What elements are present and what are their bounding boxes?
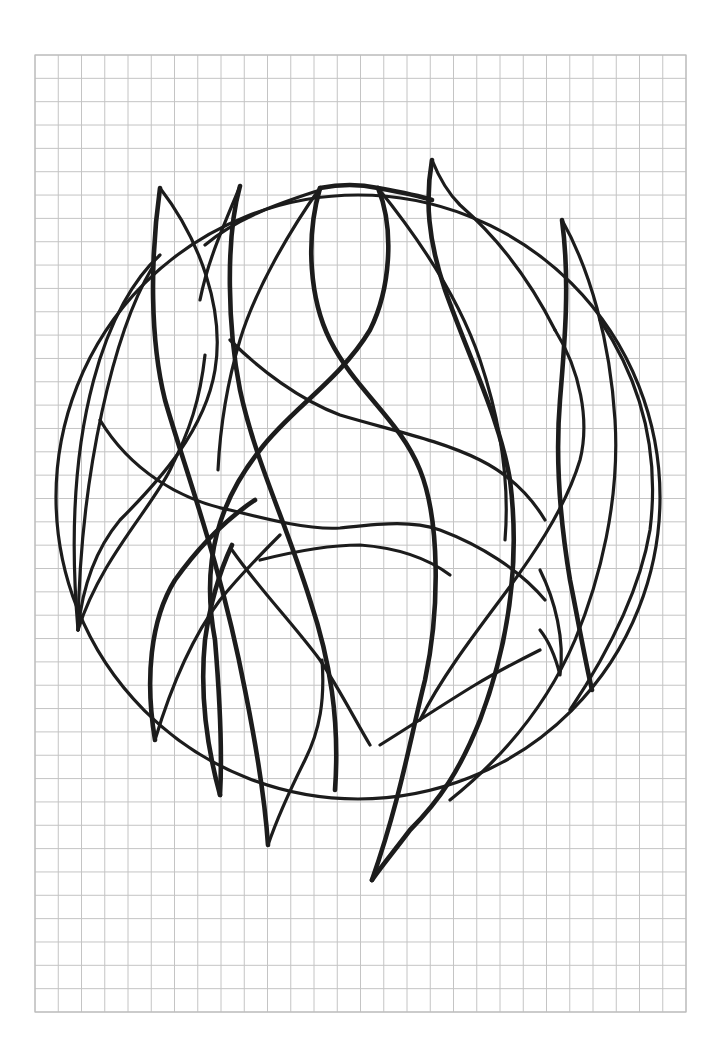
flame-4-right-edge [378,188,506,540]
flame-3-left-edge [311,188,435,880]
flame-2-sweep [205,190,320,245]
lower-cross-sweep [380,650,540,745]
stroke-left-to-center [78,355,205,630]
flame-6-left-edge [558,220,592,690]
graph-paper-sheet [0,0,727,1054]
lower-diagonal-2 [260,545,450,575]
lower-flame-3 [268,660,323,845]
middle-wavy-band [100,420,545,600]
flame-4-left-edge [210,188,388,795]
flame-5-left-edge [372,160,514,880]
right-small-flame [540,570,561,675]
grid [35,55,686,1012]
